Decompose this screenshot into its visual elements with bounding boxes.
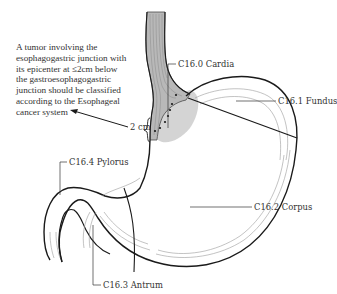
- label-pylorus: C16.4 Pylorus: [69, 158, 129, 166]
- label-fundus: C16.1 Fundus: [278, 97, 337, 105]
- note-line: cancer system: [16, 107, 146, 118]
- label-cardia: C16.0 Cardia: [178, 60, 234, 68]
- note-line: A tumor involving the: [16, 42, 146, 53]
- note-line: its epicenter at ≤2cm below: [16, 64, 146, 75]
- label-corpus: C16.2 Corpus: [254, 203, 312, 211]
- measurement-label: 2 cm: [130, 123, 151, 131]
- note-line: the gastroesophagogastric: [16, 74, 146, 85]
- label-antrum: C16.3 Antrum: [103, 281, 163, 289]
- note-line: junction should be classified: [16, 85, 146, 96]
- note-line: according to the Esophageal: [16, 96, 146, 107]
- classification-note: A tumor involving the esophagogastric ju…: [16, 42, 146, 118]
- note-line: esophagogastric junction with: [16, 53, 146, 64]
